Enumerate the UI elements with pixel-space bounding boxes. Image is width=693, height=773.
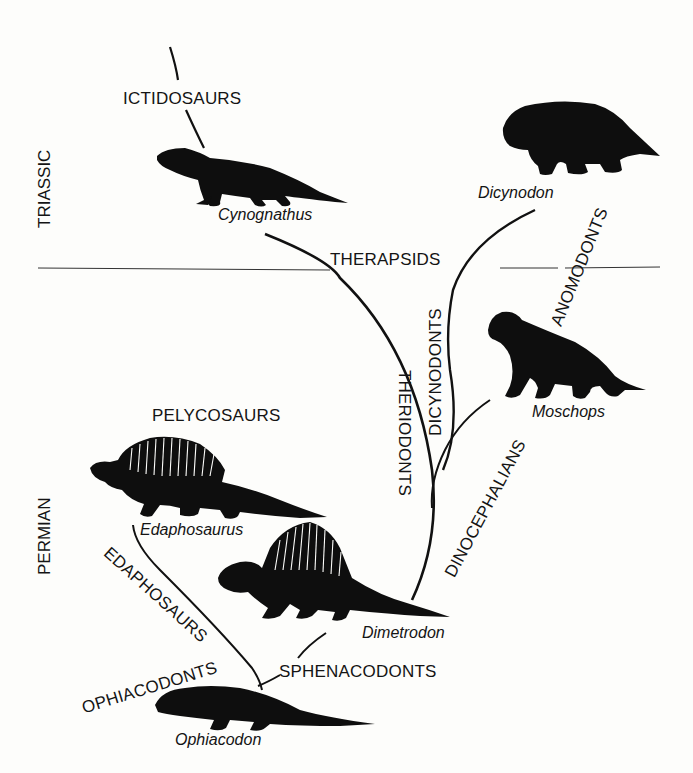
species-label-ophiacodon: Ophiacodon bbox=[175, 732, 261, 748]
species-label-dimetrodon: Dimetrodon bbox=[362, 625, 445, 641]
cynognathus-silhouette bbox=[157, 148, 348, 207]
species-label-dicynodon: Dicynodon bbox=[478, 185, 554, 201]
sphenacodonts-branch-lower bbox=[258, 675, 280, 686]
group-label-sphenacodonts: SPHENACODONTS bbox=[279, 663, 437, 680]
group-label-ictidosaurs: ICTIDOSAURS bbox=[123, 90, 241, 107]
phylogeny-diagram: TRIASSIC PERMIAN ICTIDOSAURS THERAPSIDS … bbox=[0, 0, 693, 773]
branch-lines bbox=[0, 0, 693, 773]
species-label-moschops: Moschops bbox=[532, 404, 605, 420]
period-divider-left bbox=[38, 268, 330, 270]
period-label-permian: PERMIAN bbox=[36, 498, 53, 575]
ophiacodon-silhouette bbox=[155, 686, 375, 731]
ictidosaurs-branch-lower bbox=[186, 110, 204, 148]
dimetrodon-silhouette bbox=[218, 522, 450, 621]
moschops-silhouette bbox=[488, 312, 646, 399]
group-label-therapsids: THERAPSIDS bbox=[330, 251, 441, 268]
group-label-dicynodonts: DICYNODONTS bbox=[427, 308, 444, 436]
species-label-cynognathus: Cynognathus bbox=[218, 207, 312, 223]
edaphosaurus-silhouette bbox=[90, 437, 327, 519]
sphenacodonts-branch-upper bbox=[298, 633, 326, 658]
species-label-edaphosaurus: Edaphosaurus bbox=[140, 522, 243, 538]
ictidosaurs-branch-upper bbox=[170, 47, 178, 80]
period-label-triassic: TRIASSIC bbox=[36, 150, 53, 228]
group-label-pelycosaurs: PELYCOSAURS bbox=[152, 407, 280, 424]
group-label-theriodonts: THERIODONTS bbox=[396, 370, 413, 496]
dicynodon-silhouette bbox=[503, 101, 660, 175]
